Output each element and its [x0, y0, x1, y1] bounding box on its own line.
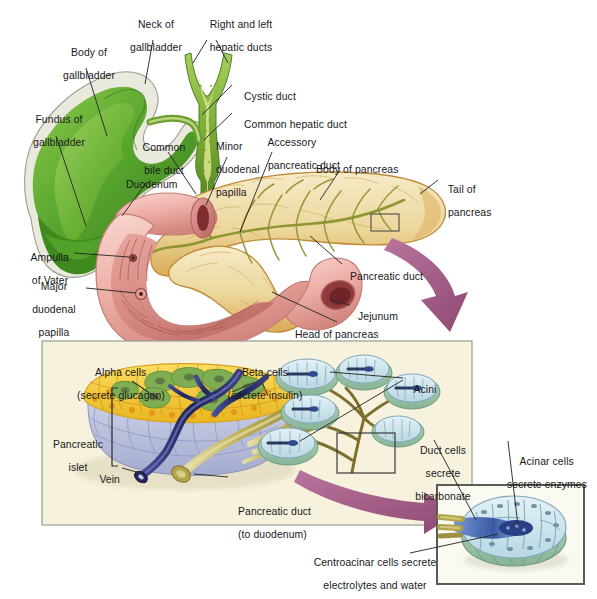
- label-head-of-pancreas: Head of pancreas: [289, 317, 405, 340]
- label-vein: Vein: [72, 462, 120, 485]
- acinus-lobe-2: [336, 355, 392, 390]
- label-pancreatic-duct: Pancreatic duct: [344, 259, 444, 282]
- label-right-and-left-hepatic-ducts: Right and left hepatic ducts: [183, 7, 293, 53]
- acinus-lobe-5: [258, 428, 318, 465]
- diagram-canvas: Neck of gallbladder Right and left hepat…: [0, 0, 597, 599]
- label-alpha-cells: Alpha cells (secrete glucagon): [58, 355, 178, 401]
- label-pancreatic-duct-to-duodenum: Pancreatic duct (to duodenum): [232, 494, 342, 540]
- label-beta-cells: Beta cells (secrete insulin): [204, 355, 320, 401]
- label-body-of-gallbladder: Body of gallbladder: [38, 35, 134, 81]
- label-body-of-pancreas: Body of pancreas: [310, 152, 420, 175]
- label-acini: Acini: [408, 372, 460, 395]
- label-duct-cells-secrete-bicarbonate: Duct cells secrete bicarbonate: [400, 433, 480, 503]
- label-minor-duodenal-papilla: Minor duodenal papilla: [210, 129, 266, 199]
- major-duodenal-papilla-orifice: [139, 292, 143, 296]
- duodenum-lumen: [197, 205, 209, 231]
- label-major-duodenal-papilla: Major duodenal papilla: [18, 269, 84, 339]
- ampulla-of-vater-pore: [132, 257, 135, 260]
- centroacinar-cells: [499, 520, 533, 536]
- label-fundus-of-gallbladder: Fundus of gallbladder: [10, 102, 102, 148]
- label-acinar-cells-secrete-enzymes: Acinar cells secrete enzymes: [492, 444, 596, 490]
- label-cystic-duct: Cystic duct: [238, 79, 328, 102]
- label-tail-of-pancreas: Tail of pancreas: [442, 172, 512, 218]
- label-centroacinar-cells: Centroacinar cells secrete electrolytes …: [292, 545, 452, 591]
- label-duodenum: Duodenum: [120, 167, 200, 190]
